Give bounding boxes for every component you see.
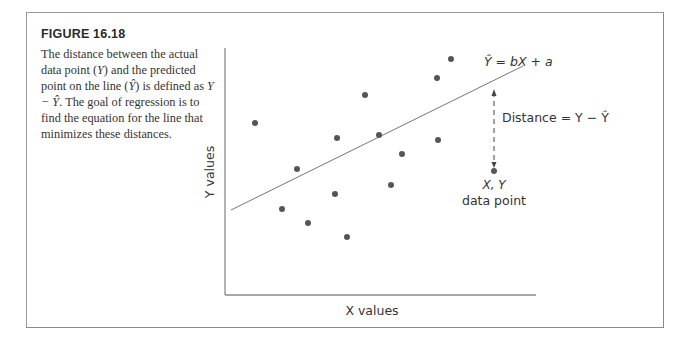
- data-points: [252, 56, 497, 240]
- regression-line: [231, 66, 523, 210]
- data-point: [448, 56, 454, 62]
- data-point: [388, 182, 394, 188]
- y-axis-label: Y values: [202, 146, 217, 199]
- data-point: [279, 206, 285, 212]
- regression-diagram: Ŷ = bX + a Distance = Y − Ŷ X, Y data po…: [0, 0, 694, 337]
- x-axis-label: X values: [345, 303, 398, 318]
- data-point: [334, 135, 340, 141]
- point-label-text: data point: [462, 193, 526, 208]
- data-point: [376, 132, 382, 138]
- data-point: [399, 151, 405, 157]
- data-point: [305, 220, 311, 226]
- data-point: [491, 168, 497, 174]
- line-equation-label: Ŷ = bX + a: [484, 54, 553, 69]
- data-point: [252, 120, 258, 126]
- data-point: [435, 137, 441, 143]
- arrow-up-icon: [492, 89, 497, 96]
- data-point: [362, 92, 368, 98]
- arrow-down-icon: [492, 162, 497, 168]
- data-point: [294, 166, 300, 172]
- distance-label: Distance = Y − Ŷ: [502, 110, 609, 125]
- data-point: [332, 191, 338, 197]
- point-label-xy: X, Y: [481, 178, 507, 192]
- data-point: [434, 75, 440, 81]
- data-point: [344, 234, 350, 240]
